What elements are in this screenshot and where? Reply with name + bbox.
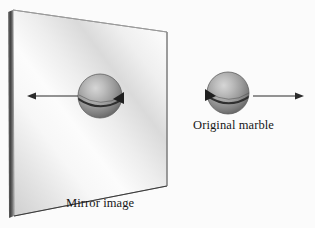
- original-marble-label: Original marble: [193, 118, 274, 133]
- mirror-image-label: Mirror image: [66, 196, 134, 211]
- diagram-svg: [0, 0, 315, 228]
- diagram-canvas: [0, 0, 315, 228]
